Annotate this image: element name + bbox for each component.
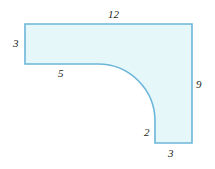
figure-container: 12 3 5 9 2 3 [0, 0, 215, 169]
dimension-label-right-edge: 9 [196, 79, 202, 90]
dimension-label-notch-vertical-edge: 2 [144, 127, 150, 138]
dimension-label-bottom-edge: 3 [168, 148, 174, 159]
composite-shape-path [25, 24, 192, 143]
dimension-label-top-edge: 12 [108, 9, 119, 20]
dimension-label-inner-bottom-edge: 5 [58, 68, 64, 79]
dimension-label-left-edge: 3 [13, 38, 19, 49]
composite-shape-svg [0, 0, 215, 169]
